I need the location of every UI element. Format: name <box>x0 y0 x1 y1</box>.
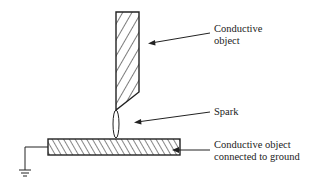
spark-icon <box>113 110 119 138</box>
upper-conductor <box>116 12 139 110</box>
ground-icon <box>19 147 48 176</box>
label-grounded-object: Conductive object connected to ground <box>214 139 300 163</box>
arrow-upper-object <box>151 33 210 43</box>
lower-conductor <box>48 139 180 155</box>
label-conductive-object: Conductive object <box>214 23 262 47</box>
arrow-head-upper <box>148 40 156 46</box>
arrow-spark <box>137 112 210 122</box>
label-spark: Spark <box>214 106 239 118</box>
arrow-head-spark <box>134 119 142 125</box>
